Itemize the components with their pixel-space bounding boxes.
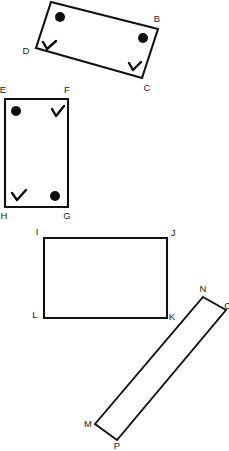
vertex-label-o: O — [224, 300, 229, 311]
quad-ijkl-outline — [44, 238, 167, 318]
vertex-label-c: C — [144, 82, 151, 93]
corner-dot-b — [138, 33, 148, 43]
corner-dot-a — [55, 12, 65, 22]
shape-quadrilateral-ijkl: I J K L — [32, 226, 175, 322]
vertex-label-h: H — [1, 210, 8, 221]
vertex-label-m: M — [84, 418, 92, 429]
geometry-figure: B C D E F G H I J K L N O P M — [0, 0, 229, 451]
vertex-label-p: P — [114, 440, 120, 451]
vertex-label-n: N — [200, 283, 207, 294]
vertex-label-e: E — [0, 84, 6, 95]
vertex-label-j: J — [171, 227, 176, 238]
vertex-label-k: K — [169, 311, 176, 322]
vertex-label-g: G — [63, 210, 70, 221]
vertex-label-b: B — [154, 13, 160, 24]
corner-dot-e — [11, 106, 21, 116]
vertex-label-l: L — [32, 309, 37, 320]
figure-canvas: B C D E F G H I J K L N O P M — [0, 0, 229, 451]
vertex-label-d: D — [23, 45, 30, 56]
shape-quadrilateral-efgh: E F G H — [0, 84, 71, 221]
corner-dot-g — [50, 191, 60, 201]
vertex-label-f: F — [64, 84, 70, 95]
shape-quadrilateral-abcd: B C D — [23, 2, 161, 93]
vertex-label-i: I — [36, 226, 39, 237]
